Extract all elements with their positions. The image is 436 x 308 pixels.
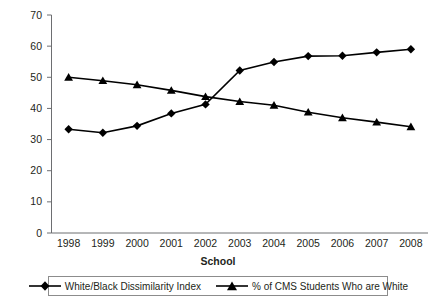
data-point-diamond [270, 58, 278, 66]
triangle-marker-icon [215, 280, 249, 292]
diamond-marker-icon [28, 280, 62, 292]
data-point-diamond [407, 45, 415, 53]
y-axis-tick-label: 30 [14, 134, 42, 145]
y-axis-tick-label: 50 [14, 72, 42, 83]
y-axis-tick-label: 70 [14, 10, 42, 21]
x-axis-title: School [0, 255, 436, 267]
chart-legend: White/Black Dissimilarity Index % of CMS… [48, 276, 388, 296]
legend-item-dissimilarity-index: White/Black Dissimilarity Index [28, 280, 201, 292]
data-point-diamond [99, 129, 107, 137]
y-axis-tick-label: 10 [14, 196, 42, 207]
legend-label-dissimilarity-index: White/Black Dissimilarity Index [65, 281, 201, 292]
legend-item-percent-white: % of CMS Students Who are White [215, 280, 408, 292]
y-axis-tick-label: 60 [14, 41, 42, 52]
y-axis-ticks [47, 15, 52, 233]
chart-series [64, 73, 415, 130]
y-axis-tick-label: 20 [14, 165, 42, 176]
chart-series [64, 45, 415, 137]
chart-series-group [64, 45, 415, 137]
legend-label-percent-white: % of CMS Students Who are White [252, 281, 408, 292]
data-point-diamond [372, 48, 380, 56]
data-point-diamond [64, 125, 72, 133]
y-axis-tick-label: 0 [14, 228, 42, 239]
data-point-diamond [133, 122, 141, 130]
x-axis-tick-label: 2008 [391, 238, 431, 249]
data-point-diamond [304, 52, 312, 60]
data-point-diamond [167, 109, 175, 117]
chart-axes [47, 15, 428, 233]
data-point-diamond [338, 52, 346, 60]
y-axis-tick-label: 40 [14, 103, 42, 114]
chart-container: 010203040506070 199819992000200120022003… [0, 0, 436, 308]
